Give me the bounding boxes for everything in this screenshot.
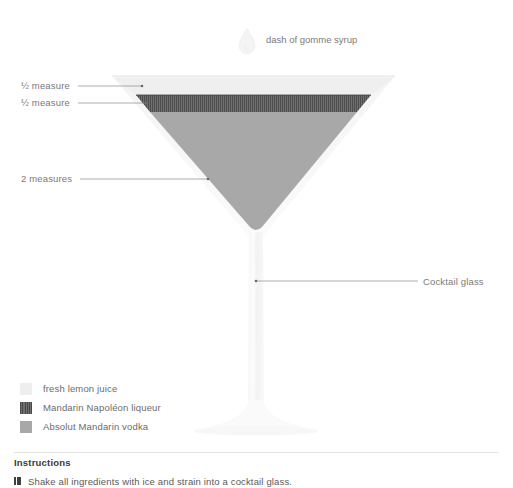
- layer-liqueur: [136, 95, 371, 112]
- legend-item-lemon: fresh lemon juice: [20, 379, 260, 398]
- instruction-step: Shake all ingredients with ice and strai…: [14, 477, 292, 487]
- recipe-diagram: dash of gomme syrup ½ measure ½ measure …: [0, 0, 513, 488]
- callout-liqueur-measure: ½ measure: [21, 98, 70, 108]
- callout-vodka-measure: 2 measures: [21, 174, 72, 184]
- glass-stem: [248, 232, 264, 402]
- layer-vodka: [150, 112, 357, 230]
- ingredient-legend: fresh lemon juice Mandarin Napoléon liqu…: [20, 379, 260, 436]
- vodka-swatch: [20, 421, 32, 433]
- liqueur-swatch: [20, 402, 32, 414]
- dash-note-label: dash of gomme syrup: [266, 35, 357, 45]
- lemon-swatch: [20, 383, 32, 395]
- legend-label-liqueur: Mandarin Napoléon liqueur: [43, 403, 161, 413]
- instructions-heading: Instructions: [14, 458, 71, 468]
- legend-label-vodka: Absolut Mandarin vodka: [43, 422, 148, 432]
- callout-glassware: Cocktail glass: [423, 277, 484, 287]
- legend-item-vodka: Absolut Mandarin vodka: [20, 417, 260, 436]
- instructions-divider: [14, 452, 499, 453]
- layer-lemon-juice: [114, 78, 393, 95]
- callout-lemon-measure: ½ measure: [21, 81, 70, 91]
- instruction-step-text: Shake all ingredients with ice and strai…: [28, 477, 292, 487]
- legend-item-liqueur: Mandarin Napoléon liqueur: [20, 398, 260, 417]
- legend-label-lemon: fresh lemon juice: [43, 384, 117, 394]
- step-marker-icon: [14, 477, 21, 485]
- droplet-icon: [236, 26, 258, 56]
